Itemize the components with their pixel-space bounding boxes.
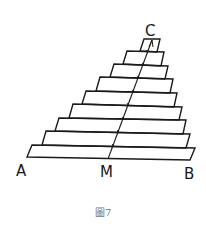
median-line [108,40,152,159]
label-m: M [100,163,113,181]
slabs [27,39,195,160]
label-a: A [16,162,27,180]
stacked-slabs-diagram: C A M B 圖7 [0,0,206,232]
apex-arrow-icon [149,40,153,47]
label-c: C [145,22,155,40]
figure-caption: 圖7 [95,207,111,218]
label-b: B [184,165,194,183]
